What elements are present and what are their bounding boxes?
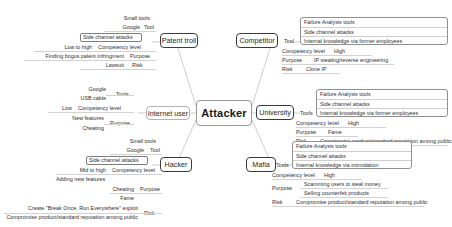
mafia-purpose-2: Selling counterfeit products (304, 190, 369, 197)
patent-troll-competency-rule (34, 51, 156, 52)
internet-user-competency-rule (48, 112, 134, 113)
internet-user-purpose-2: Cheating (48, 125, 104, 132)
competitor-competency-label: Competency level (282, 48, 325, 55)
competitor-risk-label: Risk (282, 66, 292, 73)
mafia-purpose-rule-2 (300, 197, 388, 198)
patent-troll-tools-label: Tool (144, 24, 154, 31)
mafia-risk-1: Compromise product/standard reputation a… (296, 199, 428, 206)
branch-node-university[interactable]: University (256, 105, 294, 120)
patent-troll-tool-1: Small tools (60, 15, 150, 22)
mafia-purpose-1: Scamming users to steal money (304, 181, 381, 188)
university-competency-rule (296, 127, 386, 128)
competitor-competency-value: High (334, 48, 345, 55)
internet-user-tool-1: Google (48, 86, 106, 93)
hacker-competency-rule (56, 174, 162, 175)
university-competency-value: High (348, 120, 359, 127)
competitor-risk-1: Clone IP (306, 66, 327, 73)
hacker-risk-2: Compromise product/standard reputation a… (4, 214, 138, 221)
patent-troll-purpose-rule (24, 60, 156, 61)
mafia-competency-rule (272, 179, 362, 180)
mafia-tool-3: Internal knowledge via intimidation (293, 161, 411, 170)
hacker-tool-rule (110, 154, 162, 155)
competitor-risk-rule (282, 73, 340, 74)
university-purpose-rule (296, 136, 358, 137)
mafia-purpose-label: Purpose (272, 185, 292, 192)
mafia-risk-rule (272, 206, 424, 207)
patent-troll-purpose-1: Finding bogus patent infringment (24, 53, 124, 60)
mafia-competency-label: Competency level (272, 172, 315, 179)
hacker-tool-2: Google (66, 147, 144, 154)
hacker-purpose-label: Purpose (140, 186, 160, 193)
internet-user-tool-rule (106, 95, 134, 96)
competitor-purpose-label: Purpose (282, 57, 302, 64)
university-competency-label: Competency level (296, 120, 339, 127)
patent-troll-risk-rule (80, 69, 156, 70)
university-tool-2: Side channel attacks (317, 100, 447, 110)
internet-user-competency-label: Competency level (78, 105, 121, 112)
competitor-competency-rule (282, 55, 372, 56)
patent-troll-risk-1: Lawsuit (80, 62, 124, 69)
hacker-competency-label: Competency level (112, 167, 155, 174)
branch-node-hacker[interactable]: Hacker (160, 157, 192, 172)
patent-troll-tool-rule (104, 31, 156, 32)
mafia-tool-1: Failure Analysis tools (293, 142, 411, 152)
patent-troll-purpose-label: Purpose (130, 53, 150, 60)
mafia-competency-value: High (324, 172, 335, 179)
internet-user-purpose-1: New features (48, 115, 104, 122)
university-purpose-label: Purpose (296, 129, 316, 136)
university-tools-group: Failure Analysis tools Side channel atta… (316, 89, 448, 117)
patent-troll-tool-2: Google (60, 24, 140, 31)
branch-node-patent-troll[interactable]: Patent troll (160, 33, 198, 48)
mafia-tools-group: Failure Analysis tools Side channel atta… (292, 141, 412, 169)
competitor-tool-2: Side channel attacks (301, 28, 447, 38)
mafia-risk-label: Risk (272, 199, 282, 206)
branch-node-competitor[interactable]: Competitor (236, 33, 278, 48)
hacker-purpose-rule (110, 193, 162, 194)
hacker-tool-3-highlight: Side channel attacks (86, 156, 148, 165)
university-tools-label: Tools (300, 110, 313, 117)
hacker-tools-label: Tool (150, 147, 160, 154)
hacker-risk-rule (4, 213, 162, 214)
branch-node-internet-user[interactable]: Internet user (146, 106, 190, 120)
competitor-tool-3: Internal knowledge via former employees (301, 37, 447, 46)
patent-troll-tool-3-highlight: Side channel attacks (80, 33, 142, 42)
internet-user-competency-value: Low (48, 105, 72, 112)
competitor-purpose-1: IP stealing/reverse engineering (314, 57, 388, 64)
hacker-purpose-1: Adding new features (56, 176, 105, 183)
hacker-competency-value: Mid to high (56, 167, 106, 174)
mafia-tools-label: Tools (276, 162, 289, 169)
competitor-tools-label: Tool (284, 38, 294, 45)
competitor-tools-group: Failure Analysis tools Side channel atta… (300, 17, 448, 45)
university-tool-1: Failure Analysis tools (317, 90, 447, 100)
mafia-purpose-rule-1 (300, 188, 388, 189)
hacker-tool-1: Small tools (66, 138, 156, 145)
hacker-purpose-3: Fame (86, 195, 134, 202)
university-tool-3: Internal knowledge via former employees (317, 109, 447, 118)
patent-troll-competency-label: Competency level (98, 44, 141, 51)
competitor-purpose-rule (282, 64, 394, 65)
patent-troll-risk-label: Risk (132, 62, 142, 69)
center-node-attacker[interactable]: Attacker (196, 100, 252, 126)
internet-user-purpose-rule (104, 124, 134, 125)
hacker-risk-1: Create "Break Once, Run Everywhere" expl… (14, 205, 138, 212)
internet-user-tool-2: USB cable (48, 95, 106, 102)
hacker-purpose-2: Cheating (56, 186, 134, 193)
mafia-tool-2: Side channel attacks (293, 152, 411, 162)
competitor-tool-1: Failure Analysis tools (301, 18, 447, 28)
university-purpose-1: Fame (328, 129, 342, 136)
patent-troll-competency-value: Low to high (34, 44, 92, 51)
branch-node-mafia[interactable]: Mafia (246, 157, 276, 172)
